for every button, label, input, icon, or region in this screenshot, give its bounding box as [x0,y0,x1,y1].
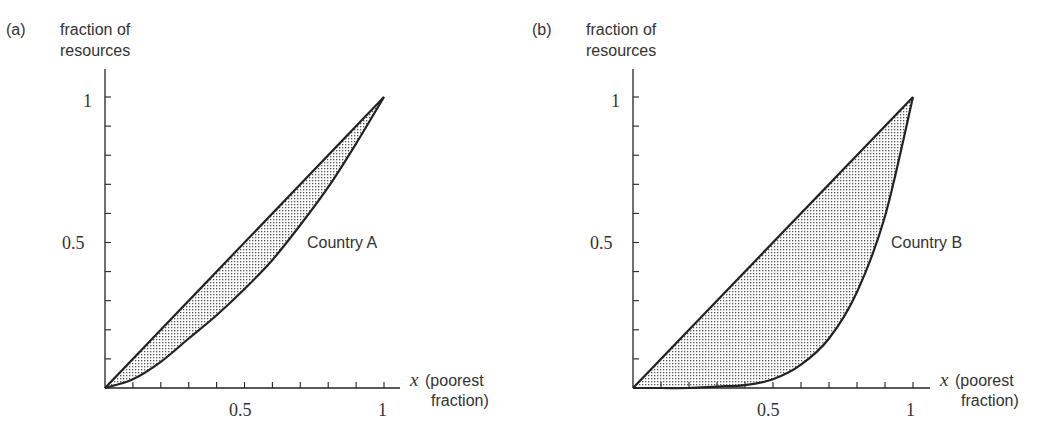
panel-a-xtick-05: 0.5 [229,400,252,420]
panel-b-xtick-05: 0.5 [757,400,780,420]
panel-b-xlabel-line1: (poorest [955,372,1014,389]
panel-b-xlabel-var: x [939,369,949,390]
panel-a-ylabel-line1: fraction of [60,21,131,38]
panel-a-ytick-1: 1 [83,91,92,111]
panel-a-curve-label: Country A [307,234,378,251]
panel-a-label: (a) [6,21,26,38]
panel-b-xtick-1: 1 [906,400,915,420]
panel-b-ytick-1: 1 [611,91,620,111]
panel-b-ytick-05: 0.5 [590,233,613,253]
figure: (a) fraction of resources 1 0.5 0.5 1 x … [0,0,1057,444]
panel-a-xlabel-line1: (poorest [425,372,484,389]
panel-a-xlabel-line2: fraction) [431,392,489,409]
panel-b-ylabel-line1: fraction of [586,21,657,38]
panel-a-ylabel-line2: resources [60,42,130,59]
panel-b-xlabel-line2: fraction) [961,392,1019,409]
panel-a-ytick-05: 0.5 [62,233,85,253]
panel-a [105,69,400,388]
panel-b-curve-label: Country B [891,234,962,251]
panel-b-label: (b) [532,21,552,38]
panel-b [633,69,930,388]
panel-a-xtick-1: 1 [378,400,387,420]
panel-b-ylabel-line2: resources [586,42,656,59]
panel-a-xlabel-var: x [409,369,419,390]
